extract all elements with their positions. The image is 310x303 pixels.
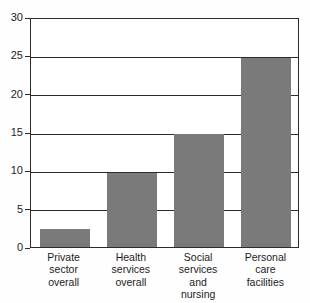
bar xyxy=(174,134,224,247)
x-category-label-line: facilities xyxy=(232,276,299,288)
x-category-label-line: Social xyxy=(165,251,232,263)
y-tick-label: 15 xyxy=(0,127,23,138)
x-category-label: Personalcarefacilities xyxy=(232,251,299,288)
x-category-label-line: Private xyxy=(30,251,97,263)
bar-chart: 051015202530 PrivatesectoroverallHealths… xyxy=(0,0,310,303)
x-category-label-line: services xyxy=(165,263,232,275)
y-tick-label: 25 xyxy=(0,50,23,61)
x-category-label: Privatesectoroverall xyxy=(30,251,97,288)
x-category-label-line: services xyxy=(97,263,164,275)
x-category-label: Healthservicesoverall xyxy=(97,251,164,288)
x-category-label: Socialservicesandnursing xyxy=(165,251,232,301)
y-tick-label: 0 xyxy=(0,242,23,253)
x-category-label-line: Personal xyxy=(232,251,299,263)
x-category-label-line: overall xyxy=(97,276,164,288)
x-axis-category-labels: PrivatesectoroverallHealthservicesoveral… xyxy=(30,251,299,303)
x-category-label-line: Health xyxy=(97,251,164,263)
bar xyxy=(241,58,291,247)
x-category-label-line: nursing xyxy=(165,288,232,300)
y-tick-label: 5 xyxy=(0,204,23,215)
y-tick-label: 10 xyxy=(0,165,23,176)
x-category-label-line: overall xyxy=(30,276,97,288)
bar xyxy=(107,173,157,247)
x-category-label-line: and xyxy=(165,276,232,288)
x-category-label-line: sector xyxy=(30,263,97,275)
plot-area xyxy=(30,18,299,248)
x-category-label-line: care xyxy=(232,263,299,275)
y-tick-label: 30 xyxy=(0,12,23,23)
y-tick-label: 20 xyxy=(0,89,23,100)
bar xyxy=(40,229,90,247)
